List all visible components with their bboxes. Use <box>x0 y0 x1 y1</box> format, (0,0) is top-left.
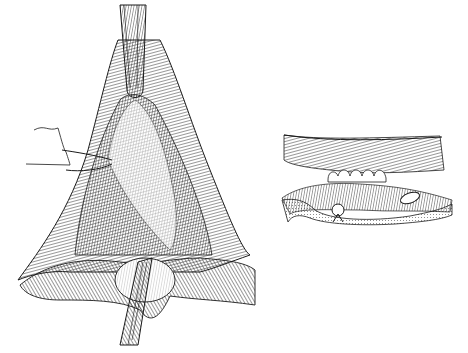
inset-sutures <box>328 170 386 182</box>
inset-panel <box>282 135 452 225</box>
inset-top-layer <box>284 135 444 173</box>
main-panel <box>18 5 255 345</box>
stay-suture <box>26 128 70 165</box>
surgical-illustration <box>0 0 468 353</box>
